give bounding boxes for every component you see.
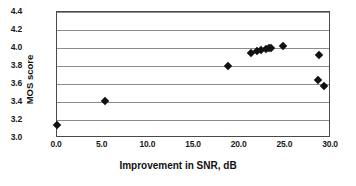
data-point-marker [101,97,109,105]
plot-area [56,11,330,137]
y-tick-label: 4.0 [0,42,22,52]
x-tick-label: 5.0 [82,139,122,149]
x-tick-label: 30.0 [310,139,350,149]
x-axis-title: Improvement in SNR, dB [0,160,356,171]
y-tick-label: 3.4 [0,96,22,106]
y-tick-label: 3.6 [0,78,22,88]
x-tick-label: 0.0 [36,139,76,149]
data-point-marker [278,42,286,50]
x-tick-label: 20.0 [219,139,259,149]
data-point-marker [224,62,232,70]
y-tick-label: 4.4 [0,6,22,16]
data-points [57,12,329,136]
data-point-marker [319,82,327,90]
y-tick-label: 4.2 [0,24,22,34]
chart-figure: MOS score 3.03.23.43.63.84.04.24.4 0.05.… [0,0,356,186]
data-point-marker [53,121,61,129]
y-tick-label: 3.2 [0,114,22,124]
x-tick-label: 25.0 [264,139,304,149]
y-tick-label: 3.8 [0,60,22,70]
x-tick-label: 10.0 [127,139,167,149]
x-tick-label: 15.0 [173,139,213,149]
y-axis-title: MOS score [24,25,35,135]
data-point-marker [315,51,323,59]
y-tick-label: 3.0 [0,132,22,142]
